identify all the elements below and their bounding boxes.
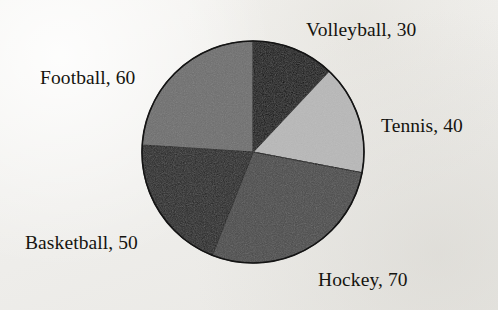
pie-label-volleyball: Volleyball, 30 <box>306 20 416 40</box>
pie-chart-svg <box>0 0 498 310</box>
pie-slice-group <box>142 41 364 263</box>
pie-label-hockey: Hockey, 70 <box>318 270 408 290</box>
pie-slice-football[interactable] <box>142 41 253 152</box>
pie-label-football: Football, 60 <box>40 68 135 88</box>
pie-label-basketball: Basketball, 50 <box>25 233 138 253</box>
pie-label-tennis: Tennis, 40 <box>381 116 463 136</box>
pie-chart-figure: Volleyball, 30 Tennis, 40 Hockey, 70 Bas… <box>0 0 498 310</box>
